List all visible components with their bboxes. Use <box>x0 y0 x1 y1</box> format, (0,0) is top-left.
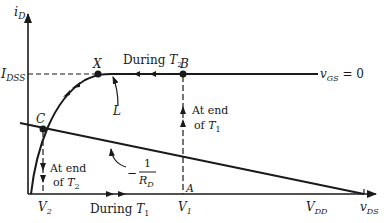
end-t1-line2: of T1 <box>194 119 221 134</box>
idss-label: IDSS <box>0 66 26 83</box>
arrow-down-1 <box>40 163 46 171</box>
during-t1-label: During T1 <box>90 202 149 218</box>
point-c <box>40 126 47 133</box>
arrow-left-1 <box>134 71 140 77</box>
point-x-label: X <box>92 57 102 71</box>
jfet-diagram: iD IDSS X B C A During T2 vGS = 0 L At e… <box>0 0 387 223</box>
point-x <box>95 71 102 78</box>
v1-tick-label: V1 <box>178 200 192 216</box>
v2-tick-label: V2 <box>38 200 52 216</box>
arrow-up-1 <box>180 106 186 114</box>
vgs-label: vGS = 0 <box>320 67 364 83</box>
point-c-label: C <box>36 112 45 126</box>
slope-numerator: 1 <box>144 157 151 170</box>
l-pointer <box>113 77 118 106</box>
vdd-tick-label: VDD <box>306 200 328 216</box>
slope-pointer <box>111 149 126 167</box>
x-axis-label: vDS <box>360 200 379 216</box>
end-t2-line1: At end <box>49 162 86 175</box>
y-axis-label: iD <box>14 4 25 21</box>
arrow-left-2 <box>150 71 156 77</box>
slope-minus: − <box>127 166 137 180</box>
inductor-label: L <box>112 104 121 118</box>
arrow-curve-2 <box>63 90 70 97</box>
point-a-label: A <box>185 182 194 195</box>
end-t1-line1: At end <box>191 104 228 117</box>
during-t2-label: During T2 <box>123 53 182 69</box>
point-b <box>180 71 187 78</box>
slope-denominator: RD <box>138 174 154 189</box>
arrow-right-1 <box>106 191 114 197</box>
end-t2-line2: of T2 <box>53 176 80 191</box>
arrow-up-2 <box>180 119 186 127</box>
arrow-right-2 <box>118 191 126 197</box>
arrow-down-2 <box>40 175 46 183</box>
arrow-curve-1 <box>72 82 80 88</box>
